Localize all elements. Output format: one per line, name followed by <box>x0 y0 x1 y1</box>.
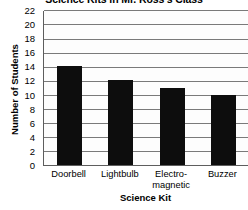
plot-area <box>43 11 248 166</box>
chart-title: Science Kits in Mr. Ross's Class <box>0 0 248 5</box>
x-axis-tick-label-line: magnetic <box>146 180 197 191</box>
x-axis-tick-label-line: Electro- <box>146 169 197 180</box>
bar <box>108 80 133 165</box>
x-axis-tick-label: Electro-magnetic <box>146 169 197 190</box>
x-axis-tick-label-line: Buzzer <box>197 169 248 180</box>
gridline <box>44 10 248 11</box>
gridline <box>44 165 248 166</box>
bar <box>211 95 236 165</box>
x-axis-tick-label-line: Doorbell <box>43 169 94 180</box>
y-axis-tick-label: 2 <box>5 146 35 157</box>
y-axis-tick-label: 22 <box>5 5 35 16</box>
y-axis-tick-label: 12 <box>5 75 35 86</box>
bar <box>57 66 82 165</box>
gridline <box>44 53 248 54</box>
x-axis-title: Science Kit <box>43 192 248 203</box>
gridline <box>44 39 248 40</box>
y-axis-tick-label: 20 <box>5 19 35 30</box>
x-axis-tick-label-line: Lightbulb <box>94 169 145 180</box>
x-axis-tick-label: Buzzer <box>197 169 248 180</box>
y-axis-tick-label: 10 <box>5 90 35 101</box>
x-axis-tick-label: Doorbell <box>43 169 94 180</box>
y-axis-tick-label: 14 <box>5 61 35 72</box>
y-axis-tick-label: 18 <box>5 33 35 44</box>
gridline <box>44 24 248 25</box>
bar-chart-figure: Science Kits in Mr. Ross's Class Number … <box>0 0 248 210</box>
y-axis-tick-label: 16 <box>5 47 35 58</box>
x-axis-tick-label: Lightbulb <box>94 169 145 180</box>
y-axis-tick-label: 8 <box>5 104 35 115</box>
bar <box>160 88 185 166</box>
y-axis-tick-label: 4 <box>5 132 35 143</box>
y-axis-tick-label: 0 <box>5 160 35 171</box>
y-axis-tick-label: 6 <box>5 118 35 129</box>
